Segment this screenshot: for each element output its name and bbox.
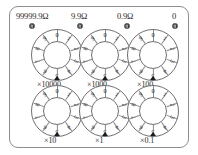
dial-digit[interactable]: 0 [148, 31, 158, 39]
dial-x100[interactable]: 0123456789 [127, 29, 179, 81]
dial-x10000[interactable]: 0123456789 [31, 29, 83, 81]
terminal-screw-icon[interactable] [77, 23, 83, 29]
multiplier-label-x1: ×1 [95, 137, 103, 145]
terminal-label-0-9-ohm: 0.9Ω [117, 12, 133, 21]
dial-x10[interactable]: 0123456789 [31, 85, 83, 137]
terminal-screw-icon[interactable] [124, 23, 130, 29]
dial-x0-1[interactable]: 0123456789 [127, 85, 179, 137]
dial-knob[interactable] [139, 41, 167, 69]
dial-digit[interactable]: 0 [148, 87, 158, 95]
decade-resistance-box-panel: 99999.9Ω 9.9Ω 0.9Ω 0 0123456789 ×10000 0… [0, 0, 198, 155]
dial-knob[interactable] [139, 97, 167, 125]
multiplier-label-x0-1: ×0.1 [140, 137, 154, 145]
terminal-label-9-9-ohm: 9.9Ω [71, 12, 87, 21]
dial-digit[interactable]: 0 [52, 31, 62, 39]
dial-digit[interactable]: 0 [100, 31, 110, 39]
dial-knob[interactable] [43, 41, 71, 69]
dial-digit[interactable]: 0 [100, 87, 110, 95]
dial-knob[interactable] [43, 97, 71, 125]
dial-x1[interactable]: 0123456789 [79, 85, 131, 137]
terminal-label-99999-9-ohm: 99999.9Ω [16, 12, 48, 21]
dial-digit[interactable]: 0 [52, 87, 62, 95]
dial-knob[interactable] [91, 41, 119, 69]
multiplier-label-x10: ×10 [44, 137, 56, 145]
dial-knob[interactable] [91, 97, 119, 125]
dial-x1000[interactable]: 0123456789 [79, 29, 131, 81]
terminal-screw-icon[interactable] [29, 23, 35, 29]
terminal-screw-icon[interactable] [172, 23, 178, 29]
terminal-label-zero: 0 [172, 12, 176, 21]
